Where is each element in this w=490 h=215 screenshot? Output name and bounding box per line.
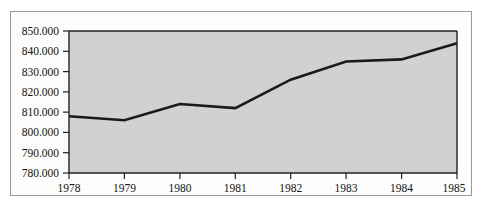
x-tick-label: 1980 xyxy=(168,182,191,194)
y-tick-label: 830.000 xyxy=(22,66,60,78)
x-tick-label: 1983 xyxy=(335,182,358,194)
y-tick-label: 790.000 xyxy=(22,147,60,159)
x-tick-label: 1982 xyxy=(279,182,302,194)
plot-area-background xyxy=(69,31,457,173)
y-tick-label: 800.000 xyxy=(22,126,60,138)
y-axis-ticks: 850.000 840.000 830.000 820.000 810.000 … xyxy=(22,25,69,179)
y-tick-label: 780.000 xyxy=(22,167,60,179)
y-tick-label: 840.000 xyxy=(22,45,60,57)
x-axis-ticks: 1978 1979 1980 1981 1982 1983 1984 1985 xyxy=(58,173,466,194)
x-tick-label: 1984 xyxy=(390,182,413,194)
x-tick-label: 1981 xyxy=(224,182,247,194)
y-tick-label: 810.000 xyxy=(22,106,60,118)
x-tick-label: 1985 xyxy=(443,182,466,194)
x-tick-label: 1978 xyxy=(58,182,81,194)
y-tick-label: 820.000 xyxy=(22,86,60,98)
chart-figure: 850.000 840.000 830.000 820.000 810.000 … xyxy=(10,11,472,196)
y-tick-label: 850.000 xyxy=(22,25,60,37)
x-tick-label: 1979 xyxy=(113,182,136,194)
line-chart-plot: 850.000 840.000 830.000 820.000 810.000 … xyxy=(11,12,471,195)
